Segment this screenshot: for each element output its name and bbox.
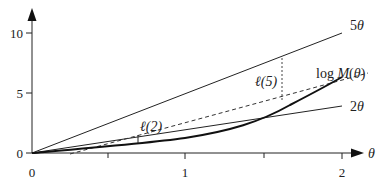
x-axis (32, 149, 364, 158)
y-ticks (26, 33, 32, 153)
y-tick-label-10: 10 (10, 26, 23, 41)
y-axis (28, 8, 37, 153)
chart: 10 5 0 0 1 2 θ 5θ 2θ log M(θ) ℓ(5) ℓ(2) (0, 0, 382, 188)
y-tick-label-5: 5 (17, 86, 24, 101)
x-axis-arrow-icon (351, 149, 364, 158)
annotation-l2-label: ℓ(2) (140, 119, 162, 135)
series-dashed-asymptote (70, 73, 368, 154)
x-tick-label-0: 0 (29, 165, 36, 180)
x-axis-label: θ (368, 146, 375, 161)
x-tick-label-2: 2 (339, 165, 346, 180)
series-2theta (32, 106, 342, 153)
x-ticks (108, 153, 342, 159)
y-tick-label-0: 0 (17, 146, 24, 161)
x-tick-label-1: 1 (182, 165, 189, 180)
label-logM: log M(θ) (316, 66, 366, 82)
annotation-l5-label: ℓ(5) (255, 74, 277, 90)
y-axis-arrow-icon (28, 8, 37, 21)
label-5theta: 5θ (350, 18, 364, 33)
series-logM (32, 77, 342, 153)
label-2theta: 2θ (350, 99, 364, 114)
